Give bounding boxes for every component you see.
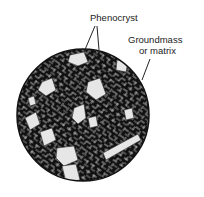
- phenocryst-leader-2: [97, 26, 99, 50]
- phenocryst-leader-1: [84, 26, 95, 52]
- matrix-label: or matrix: [139, 46, 176, 56]
- groundmass-leader: [142, 59, 150, 80]
- rock-section-diagram: [0, 0, 204, 197]
- groundmass-label: Groundmass: [128, 35, 182, 45]
- phenocryst-label: Phenocryst: [90, 13, 138, 23]
